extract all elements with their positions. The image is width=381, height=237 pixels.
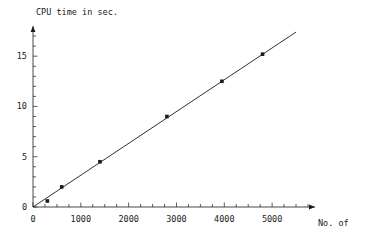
data-point-marker	[220, 80, 224, 84]
data-point-marker	[60, 185, 64, 189]
y-tick-label: 0	[7, 202, 27, 212]
x-tick-label: 3000	[156, 214, 196, 224]
y-tick-label: 15	[7, 51, 27, 61]
x-tick-label: 2000	[109, 214, 149, 224]
chart-figure: CPU time in sec. No. of elements 0100020…	[0, 0, 381, 237]
data-point-marker	[46, 199, 50, 203]
trend-line	[33, 32, 296, 207]
data-point-marker	[98, 160, 102, 164]
x-tick-label: 5000	[252, 214, 292, 224]
y-tick-label: 5	[7, 152, 27, 162]
y-tick-label: 10	[7, 101, 27, 111]
data-point-marker	[261, 52, 265, 56]
x-tick-label: 1000	[61, 214, 101, 224]
chart-title: CPU time in sec.	[36, 7, 118, 17]
x-axis-arrow-icon	[309, 205, 315, 210]
y-major-tick-group	[33, 56, 38, 207]
series-line	[33, 32, 296, 207]
x-axis-title-line-1: No. of	[318, 218, 359, 229]
x-tick-label: 0	[13, 214, 53, 224]
x-tick-label: 4000	[204, 214, 244, 224]
y-axis-arrow-icon	[31, 26, 36, 32]
data-point-marker	[165, 115, 169, 119]
x-axis-title: No. of elements	[318, 196, 359, 237]
y-minor-tick-group	[33, 36, 36, 197]
